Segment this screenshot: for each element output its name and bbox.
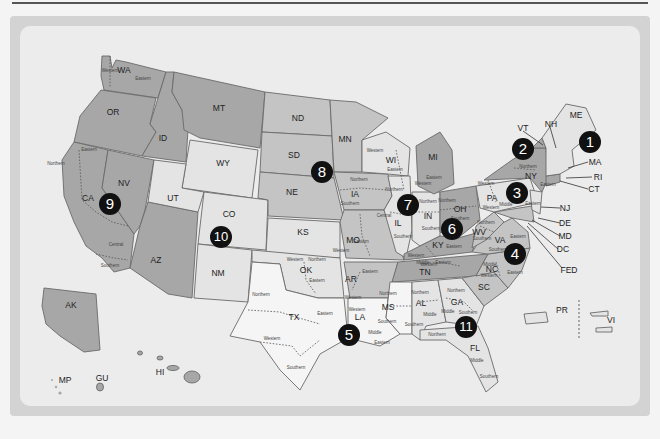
circuit-badge-2: 2 <box>512 138 534 160</box>
state-label-oh: OH <box>454 204 467 214</box>
state-label-ny: NY <box>525 171 537 181</box>
state-label-vi: VI <box>607 315 615 325</box>
circuit-badge-3: 3 <box>506 182 528 204</box>
state-label-ms: MS <box>382 302 395 312</box>
circuit-badge-7: 7 <box>397 194 419 216</box>
state-label-fed: FED <box>561 265 578 275</box>
island-hi-3 <box>157 356 163 360</box>
state-label-ga: GA <box>451 297 463 307</box>
state-label-va: VA <box>495 235 506 245</box>
island-pr <box>524 312 548 324</box>
state-label-nc: NC <box>486 264 498 274</box>
district-label-northern: Northern <box>411 290 429 295</box>
district-label-northern: Northern <box>350 177 368 182</box>
district-label-eastern: Eastern <box>435 260 451 265</box>
district-label-southern: Southern <box>405 322 423 327</box>
district-label-western: Western <box>287 257 304 262</box>
island-mp-3 <box>51 379 53 381</box>
state-wy <box>182 140 258 198</box>
district-label-western: Western <box>415 181 432 186</box>
state-label-nh: NH <box>545 119 557 129</box>
state-label-ks: KS <box>297 227 308 237</box>
district-label-northern: Northern <box>519 164 537 169</box>
district-label-western: Western <box>408 253 425 258</box>
district-label-western: Western <box>264 336 281 341</box>
district-label-eastern: Eastern <box>507 270 523 275</box>
state-label-nj: NJ <box>560 203 570 213</box>
circuit-badge-10: 10 <box>210 226 232 248</box>
district-label-southern: Southern <box>378 319 396 324</box>
district-label-northern: Northern <box>447 288 465 293</box>
state-label-il: IL <box>394 218 401 228</box>
circuit-badge-11: 11 <box>455 316 477 338</box>
state-label-ut: UT <box>167 193 178 203</box>
state-label-ne: NE <box>286 187 298 197</box>
state-label-al: AL <box>416 298 426 308</box>
district-label-northern: Northern <box>385 187 403 192</box>
district-label-eastern: Eastern <box>525 201 541 206</box>
district-label-eastern: Eastern <box>374 340 390 345</box>
district-label-northern: Northern <box>428 332 446 337</box>
district-label-northern: Northern <box>438 198 456 203</box>
district-label-eastern: Eastern <box>309 278 325 283</box>
circuit-badge-9: 9 <box>99 193 121 215</box>
island-mp-1 <box>58 391 61 394</box>
district-label-northern: Northern <box>419 199 437 204</box>
district-label-western: Western <box>349 307 366 312</box>
district-label-northern: Northern <box>308 257 326 262</box>
island-hi <box>184 371 200 383</box>
state-label-sc: SC <box>478 282 490 292</box>
district-label-eastern: Eastern <box>510 234 526 239</box>
state-label-pa: PA <box>487 193 498 203</box>
district-label-southern: Southern <box>394 234 412 239</box>
state-label-wa: WA <box>117 65 130 75</box>
district-label-western: Western <box>483 205 500 210</box>
island-hi-2 <box>167 366 179 371</box>
state-label-ky: KY <box>432 240 443 250</box>
state-label-co: CO <box>223 209 236 219</box>
district-label-middle: Middle <box>423 312 436 317</box>
state-label-wv: WV <box>472 227 486 237</box>
circuit-badge-1: 1 <box>579 131 601 153</box>
state-label-ia: IA <box>351 189 359 199</box>
district-label-western: Western <box>345 295 362 300</box>
district-label-middle: Middle <box>441 309 454 314</box>
state-label-mp: MP <box>59 375 72 385</box>
district-label-southern: Southern <box>459 310 477 315</box>
circuit-badge-6: 6 <box>441 218 463 240</box>
state-label-id: ID <box>159 133 168 143</box>
district-label-western: Western <box>102 68 119 73</box>
state-label-nm: NM <box>211 268 224 278</box>
district-label-middle: Middle <box>470 358 483 363</box>
district-label-northern: Northern <box>252 292 270 297</box>
district-label-southern: Southern <box>422 226 440 231</box>
state-label-mt: MT <box>213 103 225 113</box>
district-label-eastern: Eastern <box>387 167 403 172</box>
state-label-tx: TX <box>289 312 300 322</box>
state-label-wi: WI <box>386 155 396 165</box>
state-label-ar: AR <box>345 274 357 284</box>
district-label-eastern: Eastern <box>426 175 442 180</box>
district-label-central: Central <box>109 242 124 247</box>
state-label-mn: MN <box>338 134 351 144</box>
state-label-ma: MA <box>589 157 602 167</box>
state-co <box>198 192 268 250</box>
circuit-badge-8: 8 <box>311 161 333 183</box>
state-label-ri: RI <box>594 172 603 182</box>
district-label-eastern: Eastern <box>317 311 333 316</box>
district-label-northern: Northern <box>47 161 65 166</box>
district-label-eastern: Eastern <box>540 182 556 187</box>
state-label-nd: ND <box>292 113 304 123</box>
island-gu <box>97 383 104 391</box>
state-ak <box>42 288 100 352</box>
state-label-ok: OK <box>300 265 312 275</box>
state-label-sd: SD <box>288 150 300 160</box>
state-label-de: DE <box>559 218 571 228</box>
state-label-tn: TN <box>419 267 430 277</box>
district-label-middle: Middle <box>416 260 429 265</box>
state-label-in: IN <box>424 211 433 221</box>
district-label-eastern: Eastern <box>135 76 151 81</box>
district-label-southern: Southern <box>101 263 119 268</box>
state-label-md: MD <box>558 231 571 241</box>
district-label-middle: Middle <box>368 330 381 335</box>
